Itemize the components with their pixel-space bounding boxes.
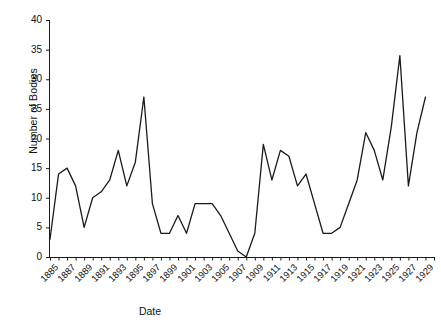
chart-figure: Number of Bodies Date 0510152025303540 1…: [0, 0, 441, 324]
line-chart-plot: [0, 0, 441, 324]
data-series-line: [50, 56, 425, 257]
axis-lines: [46, 20, 435, 261]
